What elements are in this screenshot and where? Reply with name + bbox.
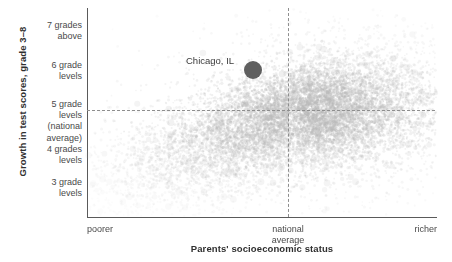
x-axis-tick-label-richer: richer [377, 224, 437, 235]
y-axis-tick-label-2: 5 gradelevels(nationalaverage) [10, 99, 82, 144]
y-axis-tick-label-0-line-1: above [57, 31, 82, 41]
y-axis-tick-label-4: 3 gradelevels [10, 177, 82, 199]
y-axis-tick-label-2-line-2: (national [47, 121, 82, 131]
y-axis-tick-label-4-line-1: levels [59, 188, 82, 198]
y-axis-tick-label-0-line-0: 7 grades [47, 20, 82, 30]
y-axis-tick-label-2-line-1: levels [59, 110, 82, 120]
horizontal-reference-line-national-average [87, 110, 435, 111]
highlight-label-chicago: Chicago, IL [186, 55, 234, 66]
y-axis-tick-label-0: 7 gradesabove [10, 20, 82, 42]
y-axis-line [87, 8, 88, 218]
y-axis-tick-label-2-line-0: 5 grade [51, 99, 82, 109]
highlight-marker-chicago[interactable] [244, 61, 262, 79]
y-axis-tick-label-3-line-1: levels [59, 155, 82, 165]
scatter-plot-figure: Growth in test scores, grade 3–8 7 grade… [0, 0, 452, 262]
y-axis-tick-label-3-line-0: 4 grades [47, 144, 82, 154]
x-axis-tick-label-national-average-line1: national [272, 224, 304, 234]
vertical-reference-line-national-average [288, 8, 289, 217]
y-axis-tick-label-4-line-0: 3 grade [51, 177, 82, 187]
y-axis-tick-label-1-line-1: levels [59, 71, 82, 81]
y-axis-tick-label-1-line-0: 6 grade [51, 60, 82, 70]
x-axis-line [87, 217, 437, 218]
x-axis-title: Parents' socioeconomic status [87, 243, 437, 254]
y-axis-tick-label-2-line-3: average) [46, 133, 82, 143]
y-axis-tick-label-1: 6 gradelevels [10, 60, 82, 82]
x-axis-tick-label-poorer: poorer [87, 224, 113, 235]
y-axis-tick-label-3: 4 gradeslevels [10, 144, 82, 166]
